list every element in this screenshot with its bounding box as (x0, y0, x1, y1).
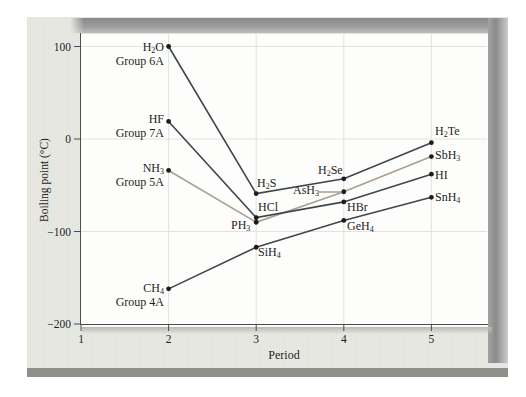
data-point-HCl (254, 215, 259, 220)
data-point-SiH4 (254, 245, 259, 250)
data-point-PH3 (254, 220, 259, 225)
data-point-HI (429, 172, 434, 177)
series-line-Group-5A-hydrides (169, 157, 432, 223)
data-point-H2Te (429, 140, 434, 145)
data-point-HBr (341, 200, 346, 205)
data-point-SnH4 (429, 195, 434, 200)
data-point-H2Se (341, 176, 346, 181)
data-point-H2O (166, 44, 171, 49)
boiling-point-chart (0, 0, 526, 397)
series-line-Group-4A-hydrides (169, 197, 432, 289)
data-point-AsH3 (341, 189, 346, 194)
data-point-CH4 (166, 286, 171, 291)
series-line-Group-6A-hydrides (169, 47, 432, 194)
data-point-SbH3 (429, 154, 434, 159)
data-point-H2S (254, 191, 259, 196)
series-line-Group-7A-hydrides (169, 121, 432, 217)
data-point-HF (166, 119, 171, 124)
data-point-GeH4 (341, 218, 346, 223)
data-point-NH3 (166, 168, 171, 173)
